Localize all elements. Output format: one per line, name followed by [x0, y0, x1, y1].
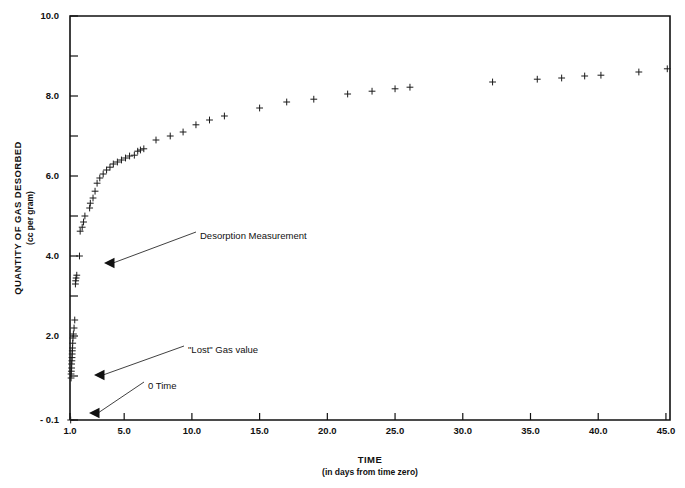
- annotation-arrow-lost-gas-value: [94, 370, 105, 380]
- data-point: [392, 85, 399, 92]
- y-tick-label-1: 8.0: [46, 90, 59, 101]
- y-tick-label-3: 4.0: [46, 250, 59, 261]
- data-point: [534, 76, 541, 83]
- y-axis-title: QUANTITY OF GAS DESORBED: [12, 141, 23, 295]
- chart-page: Desorption Measurement"Lost" Gas value0 …: [0, 0, 685, 488]
- data-point: [581, 73, 588, 80]
- annotation-arrow-desorption-measurement: [104, 258, 115, 268]
- data-point: [193, 121, 200, 128]
- x-tick-label-5: 25.0: [386, 425, 405, 436]
- data-point: [221, 113, 228, 120]
- y-tick-label-5: - 0.1: [40, 414, 60, 425]
- data-point: [283, 99, 290, 106]
- plot-frame: [70, 16, 670, 420]
- x-axis-subtitle: (in days from time zero): [322, 467, 418, 477]
- data-point: [153, 137, 160, 144]
- data-point: [67, 417, 74, 424]
- data-point: [81, 213, 88, 220]
- annotation-label-zero-time: 0 Time: [148, 380, 177, 391]
- annotation-label-desorption-measurement: Desorption Measurement: [200, 230, 307, 241]
- annotation-label-lost-gas-value: "Lost" Gas value: [188, 344, 258, 355]
- annotation-leader-lost-gas-value: [103, 346, 184, 375]
- x-tick-label-1: 5.0: [118, 425, 131, 436]
- data-point: [206, 117, 213, 124]
- annotation-arrow-zero-time: [89, 408, 100, 418]
- plot-border: [70, 16, 670, 420]
- x-tick-label-2: 10.0: [183, 425, 202, 436]
- axis-ticks: [70, 16, 666, 420]
- data-point: [489, 79, 496, 86]
- data-point: [76, 253, 83, 260]
- data-point: [140, 145, 147, 152]
- data-points: [67, 65, 670, 423]
- data-point: [407, 84, 414, 91]
- annotation-layer: Desorption Measurement"Lost" Gas value0 …: [89, 230, 307, 418]
- data-point: [167, 133, 174, 140]
- annotation-leader-zero-time: [98, 382, 144, 413]
- annotation-lost-gas-value: "Lost" Gas value: [94, 344, 258, 380]
- x-tick-label-9: 45.0: [657, 425, 676, 436]
- x-tick-label-7: 35.0: [521, 425, 540, 436]
- data-point: [80, 219, 87, 226]
- data-point: [180, 129, 187, 136]
- y-axis-subtitle: (cc per gram): [25, 191, 35, 245]
- axis-labels: 1.05.010.015.020.025.030.035.040.045.010…: [12, 10, 675, 477]
- data-point: [598, 72, 605, 79]
- data-point: [131, 152, 138, 159]
- data-point: [310, 96, 317, 103]
- desorption-scatter-chart: Desorption Measurement"Lost" Gas value0 …: [0, 0, 685, 488]
- data-point: [635, 69, 642, 76]
- y-tick-label-2: 6.0: [46, 170, 59, 181]
- data-point: [71, 325, 78, 332]
- annotation-leader-desorption-measurement: [113, 232, 196, 263]
- annotation-desorption-measurement: Desorption Measurement: [104, 230, 307, 268]
- annotation-zero-time: 0 Time: [89, 380, 177, 418]
- data-point: [344, 91, 351, 98]
- data-point: [86, 205, 93, 212]
- x-tick-label-0: 1.0: [63, 425, 76, 436]
- x-axis-title: TIME: [358, 454, 382, 465]
- data-point: [369, 88, 376, 95]
- x-tick-label-8: 40.0: [589, 425, 608, 436]
- data-point: [92, 188, 99, 195]
- data-point: [71, 317, 78, 324]
- x-tick-label-4: 20.0: [318, 425, 337, 436]
- x-tick-label-6: 30.0: [454, 425, 473, 436]
- data-point: [558, 75, 565, 82]
- y-tick-label-0: 10.0: [41, 10, 60, 21]
- x-tick-label-3: 15.0: [250, 425, 269, 436]
- y-tick-label-4: 2.0: [46, 330, 59, 341]
- data-point: [256, 105, 263, 112]
- data-point: [100, 171, 107, 178]
